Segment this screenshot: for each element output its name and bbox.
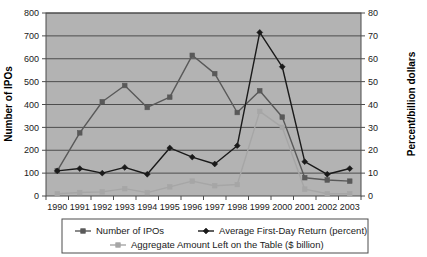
series-marker xyxy=(280,115,285,120)
right-axis-tick-label: 40 xyxy=(368,100,378,110)
x-axis-tick-label: 1994 xyxy=(137,202,157,212)
y-axis-left-title: Number of IPOs xyxy=(3,66,14,142)
left-axis-tick-label: 200 xyxy=(24,145,39,155)
y-axis-right-title: Percent/billion dollars xyxy=(406,51,417,156)
right-axis-tick-label: 10 xyxy=(368,168,378,178)
series-marker xyxy=(167,95,172,100)
x-axis-tick-label: 1996 xyxy=(182,202,202,212)
x-axis-tick-label: 2000 xyxy=(272,202,292,212)
left-axis-tick-label: 400 xyxy=(24,100,39,110)
left-axis-tick-label: 600 xyxy=(24,54,39,64)
series-marker xyxy=(212,183,217,188)
right-axis-tick-label: 50 xyxy=(368,77,378,87)
x-axis-tick-label: 2002 xyxy=(317,202,337,212)
right-axis-tick-label: 30 xyxy=(368,123,378,133)
series-marker xyxy=(347,179,352,184)
series-marker xyxy=(302,187,307,192)
legend-marker-swatch xyxy=(81,229,86,234)
legend-item-label: Number of IPOs xyxy=(96,225,164,236)
x-axis-tick-label: 1995 xyxy=(160,202,180,212)
right-axis-tick-label: 60 xyxy=(368,54,378,64)
series-marker xyxy=(257,109,262,114)
legend-item-label: Aggregate Amount Left on the Table ($ bi… xyxy=(131,239,324,250)
legend-item-label: Average First-Day Return (percent) xyxy=(219,225,367,236)
series-marker xyxy=(280,125,285,130)
x-axis-tick-label: 1997 xyxy=(205,202,225,212)
x-axis-tick-label: 2001 xyxy=(295,202,315,212)
x-axis-tick-label: 1991 xyxy=(70,202,90,212)
series-marker xyxy=(122,83,127,88)
left-axis-tick-label: 700 xyxy=(24,31,39,41)
right-axis-tick-label: 0 xyxy=(368,191,373,201)
chart-legend: Number of IPOsAverage First-Day Return (… xyxy=(62,219,368,253)
series-marker xyxy=(235,182,240,187)
legend-item-average-first-day-return[interactable]: Average First-Day Return (percent) xyxy=(198,225,367,236)
series-marker xyxy=(257,88,262,93)
left-axis-tick-label: 300 xyxy=(24,123,39,133)
series-marker xyxy=(302,175,307,180)
series-marker xyxy=(212,71,217,76)
series-marker xyxy=(347,191,352,196)
series-marker xyxy=(167,185,172,190)
chart-container: 0100200300400500600700800 01020304050607… xyxy=(0,0,427,257)
x-axis-tick-label: 2003 xyxy=(340,202,360,212)
series-marker xyxy=(325,178,330,183)
ipo-statistics-line-chart: 0100200300400500600700800 01020304050607… xyxy=(0,0,427,257)
series-marker xyxy=(235,110,240,115)
right-axis-tick-label: 20 xyxy=(368,145,378,155)
series-marker xyxy=(145,190,150,195)
left-axis-tick-label: 800 xyxy=(24,8,39,18)
series-marker xyxy=(190,53,195,58)
right-axis-tick-label: 70 xyxy=(368,31,378,41)
series-marker xyxy=(77,190,82,195)
series-marker xyxy=(100,190,105,195)
series-marker xyxy=(325,191,330,196)
series-marker xyxy=(77,131,82,136)
series-marker xyxy=(190,179,195,184)
x-axis-tick-label: 1992 xyxy=(92,202,112,212)
series-marker xyxy=(55,191,60,196)
legend-marker-swatch xyxy=(116,243,121,248)
series-marker xyxy=(122,186,127,191)
x-axis-tick-label: 1998 xyxy=(227,202,247,212)
series-marker xyxy=(100,99,105,104)
right-axis-tick-label: 80 xyxy=(368,8,378,18)
x-axis-tick-label: 1990 xyxy=(47,202,67,212)
left-axis-tick-label: 100 xyxy=(24,168,39,178)
x-axis-tick-label: 1999 xyxy=(250,202,270,212)
x-axis-tick-label: 1993 xyxy=(115,202,135,212)
left-axis-tick-label: 500 xyxy=(24,77,39,87)
legend-item-aggregate-amount-left-on-table[interactable]: Aggregate Amount Left on the Table ($ bi… xyxy=(110,239,324,250)
left-axis-tick-label: 0 xyxy=(34,191,39,201)
series-marker xyxy=(145,105,150,110)
